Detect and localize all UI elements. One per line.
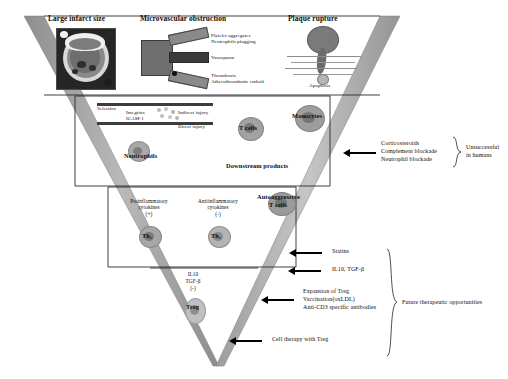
tier4-treg-expansion: Expansion of Treg	[303, 288, 349, 295]
tier4-cell-label-treg: Treg	[186, 303, 199, 310]
tier1-panel-title-mvo: Microvascular obstruction	[140, 15, 226, 23]
tier2-label-indirect-injury: Indirect injury	[178, 110, 208, 116]
tier2-bracket-label-line2: in humans	[466, 152, 492, 159]
figure-canvas: Large infarct size Microvascular obstruc…	[0, 0, 508, 379]
tier4-cytokines-label: IL10, TGF-β	[332, 266, 364, 273]
tier4-bracket	[385, 248, 399, 358]
tier4-treg-antibodies: Anti-CD3 specific antibodies	[303, 304, 376, 311]
tier1-annotation-neutrophil-plugging: Neutrophils plugging	[211, 39, 256, 45]
plaque-rupture-schematic: Apoptosis	[285, 26, 365, 88]
tier1-annotation-apoptosis: Apoptosis	[309, 83, 330, 89]
tier2-label-direct-injury: Direct injury	[178, 124, 205, 130]
tier2-label-selectins: Selectins	[97, 106, 116, 112]
tier3-autoaggressive-line2: T cells	[269, 201, 287, 208]
tier4-cytokines-arrow	[295, 270, 321, 272]
tier1-annotation-emboli: Atherothrombotic emboli	[211, 79, 264, 85]
tier4-cell-therapy-label: Cell therapy with Treg	[272, 336, 328, 343]
tier4-treg-vaccination: Vaccination(oxLDL)	[303, 296, 355, 303]
tier3-col2-sign: (-)	[186, 212, 250, 218]
tier1-annotation-platelet: Platelet aggregates	[211, 33, 251, 39]
tier2-caption-downstream-products: Downstream products	[226, 162, 288, 169]
tier2-therapy-neutrophil-blockade: Neutrophil blockade	[381, 156, 432, 163]
tier2-bracket-label-line1: Unsuccessful	[466, 144, 499, 151]
cardiac-mri-image	[56, 28, 116, 90]
tier3-autoaggressive-line1: Autoaggressive	[257, 193, 300, 200]
tier2-label-icam1: ICAM-1	[126, 116, 144, 122]
tier3-col2-cell-label: Th₂	[211, 232, 221, 239]
tier3-statins-arrow	[296, 252, 322, 254]
tier4-cell-therapy-arrow	[236, 340, 262, 342]
tier2-cell-label-monocytes: Monocytes	[292, 112, 322, 119]
tier1-annotation-thrombosis: Thrombosis	[211, 73, 236, 79]
tier4-mediator-sign: (-)	[175, 286, 211, 292]
vessel-branching-schematic	[141, 32, 207, 84]
tier2-label-integrins: Integrins	[126, 110, 145, 116]
tier2-therapy-arrow	[350, 152, 376, 154]
leukocyte-speckles	[155, 107, 181, 121]
tier2-therapy-complement-blockade: Complement blockade	[381, 148, 437, 155]
tier2-cell-label-tcells: T cells	[239, 124, 257, 131]
tier3-col1-cell-label: Th₁	[142, 232, 152, 239]
tier1-panel-title-plaque: Plaque rupture	[288, 15, 338, 23]
tier2-therapy-corticosteroids: Corticosteroids	[381, 140, 419, 147]
tier3-col1-sign: (+)	[118, 212, 180, 218]
tier2-cell-label-neutrophils: Neutrophils	[124, 152, 157, 159]
tier2-bracket	[452, 136, 464, 168]
tier1-panel-title-infarct: Large infarct size	[48, 15, 105, 23]
tier1-annotation-vasospasm: Vasospasm	[211, 55, 234, 61]
tier4-bracket-label: Future therapeutic opportunities	[402, 299, 482, 306]
tier4-treg-expansion-arrow	[268, 299, 294, 301]
tier3-statins-label: Statins	[332, 248, 349, 255]
treg-cell-icon	[185, 298, 206, 324]
